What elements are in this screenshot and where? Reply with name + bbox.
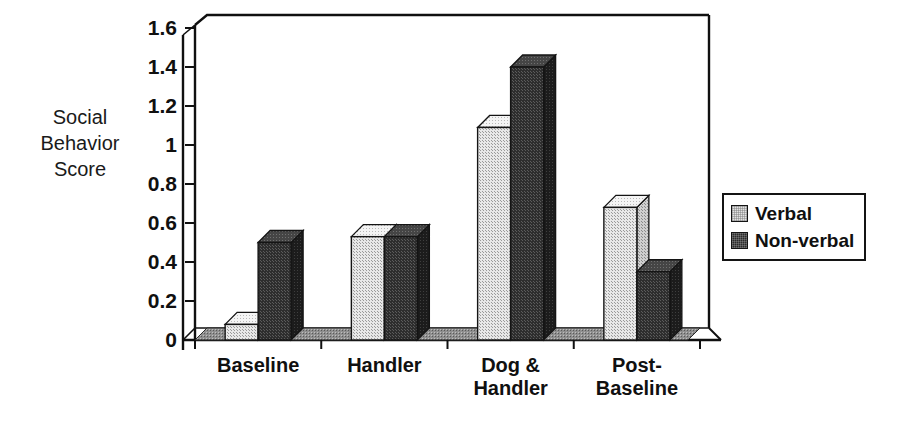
- x-category-line: Baseline: [567, 377, 707, 400]
- x-category-line: Baseline: [188, 354, 328, 377]
- legend-item-nonverbal: Non-verbal: [731, 227, 854, 254]
- bar-nonverbal-3-side-face: [670, 260, 682, 340]
- bar-nonverbal-1-side-face: [417, 225, 429, 340]
- x-category-label-2: Dog &Handler: [441, 354, 581, 400]
- bar-nonverbal-0: [258, 231, 303, 341]
- x-category-label-0: Baseline: [188, 354, 328, 377]
- bar-verbal-2-front-face: [478, 127, 511, 340]
- bar-nonverbal-1: [384, 225, 429, 340]
- bar-verbal-1-front-face: [351, 237, 384, 340]
- x-category-label-1: Handler: [314, 354, 454, 377]
- bar-nonverbal-0-front-face: [258, 243, 291, 341]
- bar-nonverbal-2-side-face: [544, 55, 556, 340]
- x-category-line: Post-: [567, 354, 707, 377]
- legend-swatch-nonverbal-icon: [731, 232, 748, 249]
- bar-nonverbal-2-front-face: [511, 67, 544, 340]
- x-category-line: Handler: [441, 377, 581, 400]
- x-category-line: Dog &: [441, 354, 581, 377]
- legend-swatch-verbal-icon: [731, 205, 748, 222]
- bar-nonverbal-3: [637, 260, 682, 340]
- bar-nonverbal-0-side-face: [291, 231, 303, 341]
- x-category-line: Handler: [314, 354, 454, 377]
- bar-chart: SocialBehaviorScore 00.20.40.60.811.21.4…: [0, 0, 906, 426]
- bar-nonverbal-3-front-face: [637, 272, 670, 340]
- bar-nonverbal-2: [511, 55, 556, 340]
- bar-verbal-3-front-face: [604, 207, 637, 340]
- bar-verbal-0-front-face: [225, 324, 258, 340]
- x-category-label-3: Post-Baseline: [567, 354, 707, 400]
- legend-label-nonverbal: Non-verbal: [755, 230, 854, 252]
- legend-item-verbal: Verbal: [731, 200, 854, 227]
- legend-label-verbal: Verbal: [755, 203, 812, 225]
- bar-nonverbal-1-front-face: [384, 237, 417, 340]
- legend: Verbal Non-verbal: [722, 193, 866, 261]
